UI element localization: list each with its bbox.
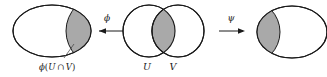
center-shape-group: U V [123, 5, 204, 72]
psi-arrow-group: ψ [219, 13, 245, 34]
psi-arrow-label: ψ [227, 13, 235, 23]
phi-arrow-group: ϕ [99, 13, 123, 34]
center-label-v: V [170, 61, 178, 72]
caption-set-u: U [48, 62, 56, 72]
right-lens-shape [216, 0, 280, 64]
left-shape-caption: ϕ(U∩V) [39, 62, 75, 72]
right-shape-group [216, 0, 327, 64]
caption-close-paren: ) [72, 62, 75, 72]
center-label-u: U [143, 61, 152, 72]
right-shaded-region [216, 0, 280, 64]
figure-canvas: ϕ(U∩V) ϕ U V ψ [0, 0, 327, 77]
caption-intersection-symbol: ∩ [57, 62, 64, 72]
phi-arrow-label: ϕ [104, 13, 110, 23]
psi-arrow-head-icon [238, 28, 245, 33]
phi-arrow-head-icon [99, 28, 106, 33]
left-shape-group: ϕ(U∩V) [13, 0, 136, 72]
set-mapping-figure: ϕ(U∩V) ϕ U V ψ [0, 0, 327, 77]
